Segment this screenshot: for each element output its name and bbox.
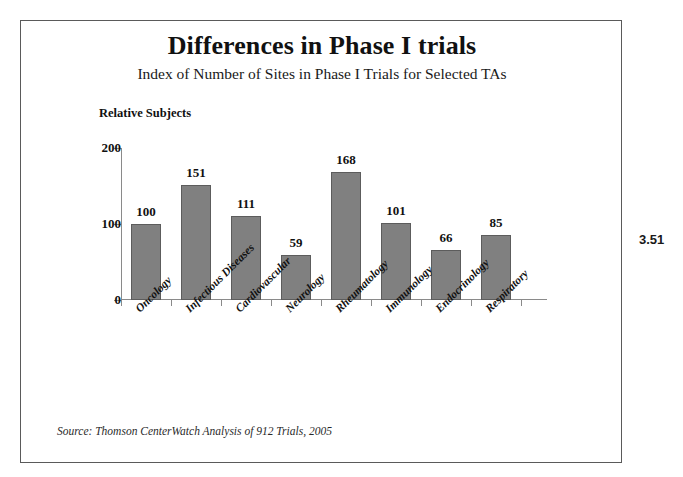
bar-value-label: 100: [121, 204, 171, 220]
bar-value-label: 66: [421, 230, 471, 246]
x-axis-category-labels: OncologyInfectious DiseasesCardiovascula…: [121, 306, 561, 396]
y-axis-title: Relative Subjects: [99, 106, 191, 121]
bar-value-label: 168: [321, 152, 371, 168]
plot-area: 0100200 100151111591681016685: [121, 148, 551, 300]
y-tick-label: 200: [102, 140, 122, 156]
y-tick-label: 100: [102, 216, 122, 232]
bar-value-label: 101: [371, 203, 421, 219]
bar-value-label: 85: [471, 215, 521, 231]
bar-value-label: 151: [171, 165, 221, 181]
chart-subtitle: Index of Number of Sites in Phase I Tria…: [21, 65, 623, 83]
source-note: Source: Thomson CenterWatch Analysis of …: [57, 425, 332, 437]
page-marker: 3.51: [639, 232, 664, 247]
bar-value-label: 59: [271, 235, 321, 251]
slide-frame: Differences in Phase I trials Index of N…: [20, 20, 622, 463]
bar-value-label: 111: [221, 196, 271, 212]
chart-title: Differences in Phase I trials: [21, 31, 623, 61]
